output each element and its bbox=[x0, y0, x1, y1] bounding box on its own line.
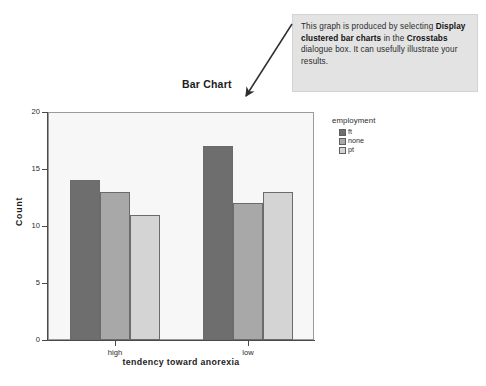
callout-note-text: This graph is produced by selecting Disp… bbox=[301, 21, 470, 67]
legend-items: ftnonept bbox=[332, 128, 375, 154]
x-axis-tick-label: high bbox=[108, 348, 122, 357]
chart-legend: employment ftnonept bbox=[332, 116, 375, 155]
bar bbox=[263, 192, 293, 340]
y-axis-tick-label: 10 bbox=[32, 221, 40, 230]
legend-item: none bbox=[339, 137, 375, 145]
x-axis-tick: high bbox=[115, 340, 116, 346]
x-axis-tick-label: low bbox=[242, 348, 253, 357]
legend-item-label: none bbox=[348, 137, 364, 145]
bar bbox=[100, 192, 130, 340]
bar bbox=[130, 215, 160, 340]
chart-title: Bar Chart bbox=[182, 78, 232, 90]
y-axis-title: Count bbox=[14, 197, 24, 226]
y-axis-tick: 0 bbox=[42, 340, 48, 341]
y-axis-tick-label: 5 bbox=[36, 278, 40, 287]
legend-item: ft bbox=[339, 128, 375, 136]
legend-item-label: pt bbox=[348, 146, 354, 154]
bar bbox=[233, 203, 263, 340]
y-axis-tick-label: 15 bbox=[32, 164, 40, 173]
bar bbox=[70, 180, 100, 340]
legend-swatch-icon bbox=[339, 147, 346, 154]
y-axis-tick-label: 20 bbox=[32, 107, 40, 116]
bar bbox=[203, 146, 233, 340]
x-axis-tick: low bbox=[248, 340, 249, 346]
legend-title: employment bbox=[332, 116, 375, 125]
callout-note-box: This graph is produced by selecting Disp… bbox=[292, 14, 478, 92]
callout-arrow-icon bbox=[232, 16, 302, 108]
legend-item-label: ft bbox=[348, 128, 352, 136]
bar-series-layer bbox=[48, 112, 314, 340]
legend-swatch-icon bbox=[339, 138, 346, 145]
x-axis-title: tendency toward anorexia bbox=[0, 357, 362, 367]
y-axis-tick-label: 0 bbox=[36, 335, 40, 344]
legend-swatch-icon bbox=[339, 129, 346, 136]
legend-item: pt bbox=[339, 146, 375, 154]
x-axis-line bbox=[47, 340, 315, 341]
